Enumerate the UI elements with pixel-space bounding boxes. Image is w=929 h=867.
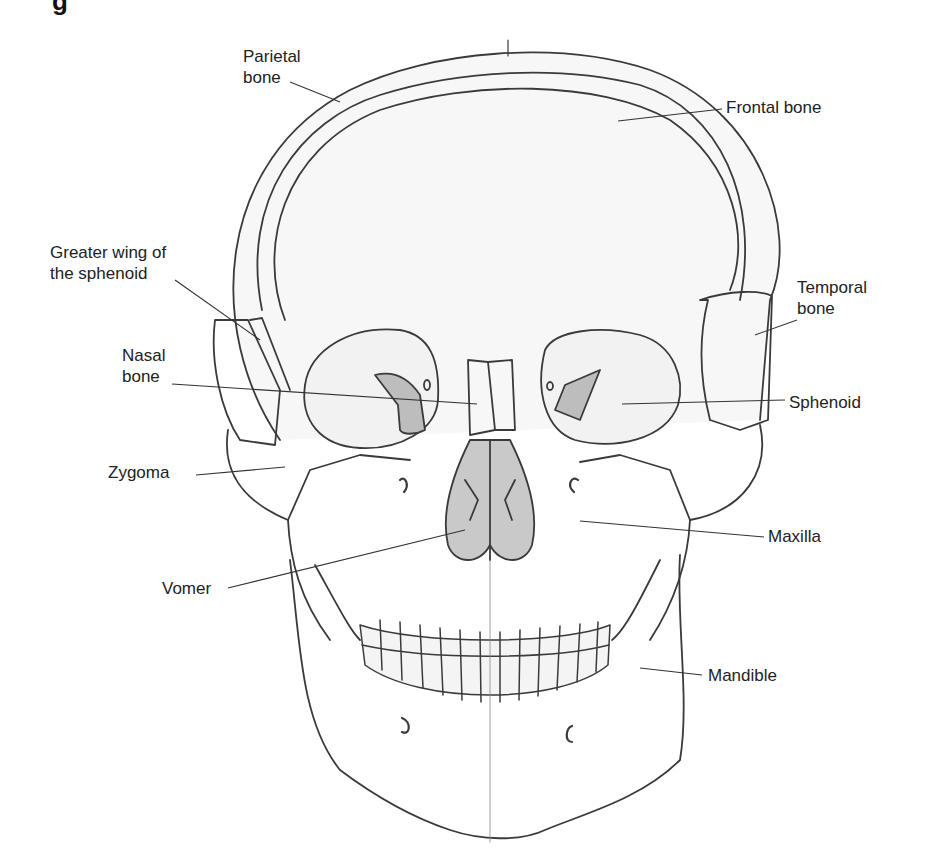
label-sphenoid: Sphenoid [789,392,861,413]
label-maxilla: Maxilla [768,526,821,547]
label-parietal: Parietal bone [243,46,301,88]
label-temporal: Temporal bone [797,277,867,319]
label-zygoma: Zygoma [108,462,169,483]
label-vomer: Vomer [162,578,211,599]
label-nasal: Nasal bone [122,345,165,387]
mandible-outline [290,555,684,838]
label-frontal: Frontal bone [726,97,821,118]
label-mandible: Mandible [708,665,777,686]
teeth [360,620,610,702]
label-greater-wing: Greater wing of the sphenoid [50,242,166,284]
right-orbit [541,330,680,444]
caption-fragment: g [52,0,68,17]
skull-diagram [0,0,929,867]
